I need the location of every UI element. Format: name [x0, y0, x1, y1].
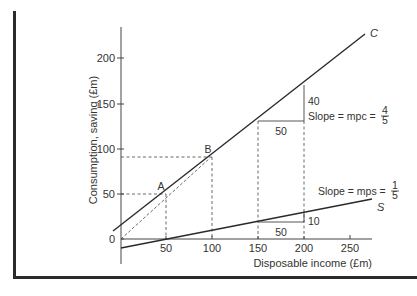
- mpc-run-label: 50: [275, 125, 287, 137]
- mps-rise-label: 10: [308, 215, 320, 227]
- y-tick-100: 100: [97, 143, 115, 155]
- mpc-triangle: [258, 85, 304, 121]
- y-tick-0: 0: [109, 233, 115, 245]
- x-tick-50: 50: [160, 242, 172, 254]
- consumption-saving-chart: 0 50 100 150 200 50 100 150 200 250 Cons…: [0, 0, 417, 296]
- x-axis-title: Disposable income (£m): [253, 257, 372, 269]
- mpc-rise-label: 40: [308, 95, 320, 107]
- mpc-slope-text: Slope = mpc =: [308, 110, 376, 122]
- 45-degree-line: [121, 158, 210, 239]
- mps-slope-text: Slope = mps =: [318, 185, 386, 197]
- x-tick-150: 150: [249, 242, 267, 254]
- guide-lines: [121, 121, 304, 239]
- mpc-denominator: 5: [382, 114, 388, 126]
- x-tick-200: 200: [295, 242, 313, 254]
- mps-triangle: [258, 213, 304, 222]
- y-tick-200: 200: [97, 52, 115, 64]
- saving-line: [121, 199, 372, 248]
- mps-run-label: 50: [275, 226, 287, 238]
- mps-denominator: 5: [392, 189, 398, 201]
- y-axis-title: Consumption, saving (£m): [87, 76, 99, 204]
- x-tick-250: 250: [341, 242, 359, 254]
- y-tick-50: 50: [103, 188, 115, 200]
- x-tick-100: 100: [203, 242, 221, 254]
- curve-c-label: C: [370, 27, 378, 39]
- curve-s-label: S: [377, 201, 385, 213]
- y-tick-150: 150: [97, 98, 115, 110]
- consumption-line: [113, 34, 365, 231]
- point-a-label: A: [157, 180, 164, 192]
- point-b-label: B: [204, 143, 211, 155]
